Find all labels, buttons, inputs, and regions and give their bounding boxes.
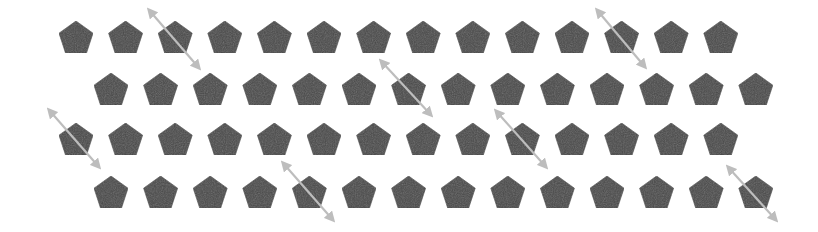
pentagon-shape	[654, 123, 688, 155]
pentagon-shape	[109, 21, 143, 53]
pentagon-shape	[406, 21, 440, 53]
pentagon-shape	[441, 176, 475, 208]
pentagon-shape	[640, 176, 674, 208]
pentagon-shape	[144, 73, 178, 105]
pentagon-shape	[193, 73, 227, 105]
pentagon-shape	[555, 21, 589, 53]
pentagon-shape	[307, 123, 341, 155]
pentagon-shape	[555, 123, 589, 155]
pentagon-shape	[456, 21, 490, 53]
pentagon-shape	[342, 176, 376, 208]
pentagon-shape	[392, 176, 426, 208]
pentagon-shape	[540, 73, 574, 105]
pentagon-shape	[94, 176, 128, 208]
pentagon-shape	[640, 73, 674, 105]
pentagon-shape	[292, 73, 326, 105]
pentagon-shape	[590, 73, 624, 105]
double-arrow-icon	[496, 111, 546, 167]
diagram-canvas	[0, 0, 818, 232]
pentagon-shape	[689, 73, 723, 105]
pentagon-shape	[456, 123, 490, 155]
pentagon-shape	[505, 21, 539, 53]
pentagon-shape	[406, 123, 440, 155]
pentagon-shape	[441, 73, 475, 105]
pentagon-shape	[342, 73, 376, 105]
pentagon-layer	[59, 21, 773, 208]
pentagon-shape	[704, 123, 738, 155]
pentagon-shape	[739, 73, 773, 105]
pentagon-shape	[307, 21, 341, 53]
double-arrow-icon	[597, 10, 645, 67]
pentagon-shape	[193, 176, 227, 208]
pentagon-shape	[243, 73, 277, 105]
pentagon-shape	[739, 176, 773, 208]
pentagon-shape	[590, 176, 624, 208]
pentagon-shape	[208, 123, 242, 155]
pentagon-grid-diagram	[0, 0, 818, 232]
pentagon-shape	[357, 21, 391, 53]
pentagon-shape	[491, 73, 525, 105]
pentagon-shape	[158, 123, 192, 155]
pentagon-shape	[491, 176, 525, 208]
pentagon-shape	[257, 21, 291, 53]
pentagon-shape	[704, 21, 738, 53]
pentagon-shape	[540, 176, 574, 208]
pentagon-shape	[243, 176, 277, 208]
pentagon-shape	[357, 123, 391, 155]
pentagon-shape	[109, 123, 143, 155]
pentagon-shape	[257, 123, 291, 155]
double-arrow-icon	[149, 10, 199, 68]
pentagon-shape	[654, 21, 688, 53]
pentagon-shape	[144, 176, 178, 208]
pentagon-shape	[94, 73, 128, 105]
pentagon-shape	[605, 123, 639, 155]
pentagon-shape	[689, 176, 723, 208]
pentagon-shape	[59, 21, 93, 53]
pentagon-shape	[208, 21, 242, 53]
